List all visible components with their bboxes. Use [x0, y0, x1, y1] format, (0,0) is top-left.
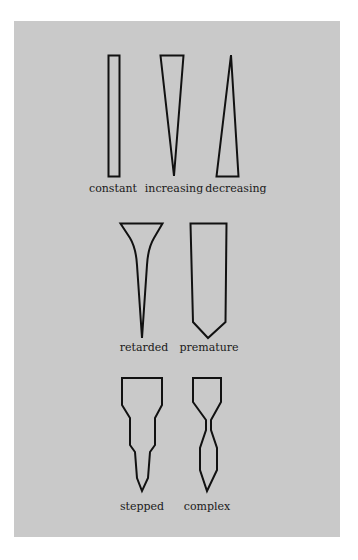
decreasing-triangle — [217, 55, 239, 177]
label-decreasing: decreasing — [205, 182, 266, 195]
retarded-funnel — [121, 224, 163, 339]
shape-decreasing: decreasing — [205, 55, 266, 195]
label-increasing: increasing — [145, 182, 203, 195]
premature-bullet — [191, 224, 227, 339]
shape-premature: premature — [179, 224, 238, 355]
stepped-profile — [122, 378, 162, 491]
complex-profile — [193, 378, 221, 491]
shape-constant: constant — [89, 56, 138, 196]
label-constant: constant — [89, 182, 138, 195]
label-stepped: stepped — [120, 500, 164, 513]
profile-shapes-diagram: constant increasing decreasing retarded … — [0, 0, 358, 560]
label-retarded: retarded — [120, 341, 169, 354]
shape-retarded: retarded — [120, 224, 169, 355]
shape-stepped: stepped — [120, 378, 164, 513]
increasing-triangle — [161, 56, 184, 177]
label-complex: complex — [184, 500, 231, 513]
constant-rectangle — [109, 56, 120, 177]
label-premature: premature — [179, 341, 238, 354]
shape-increasing: increasing — [145, 56, 203, 196]
shape-complex: complex — [184, 378, 231, 513]
